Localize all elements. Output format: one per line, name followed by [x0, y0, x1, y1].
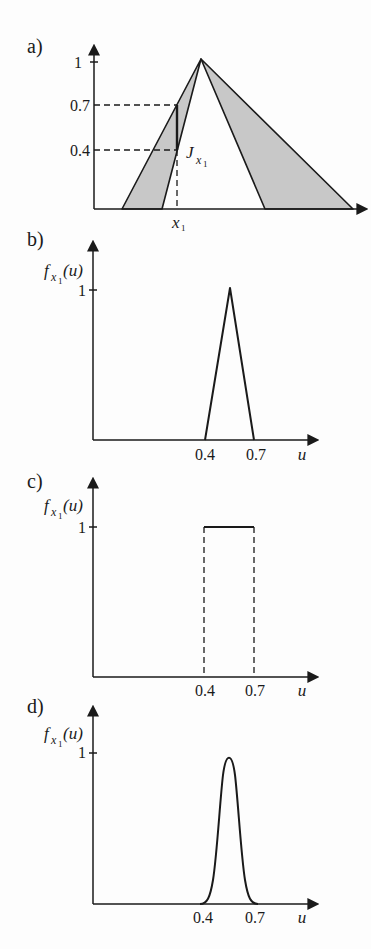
fou-left-band	[122, 59, 201, 209]
jx1-subsub: 1	[203, 159, 208, 169]
panel-d-label: d)	[27, 695, 44, 718]
panel-d-ytick-label-1: 1	[78, 744, 86, 761]
svg-text:f: f	[44, 724, 51, 743]
gaussian-secondary-mf	[200, 758, 258, 904]
panel-c-xtick-04: 0.4	[195, 682, 215, 699]
panel-a-ytick-label-04: 0.4	[70, 142, 90, 159]
svg-text:1: 1	[58, 276, 63, 286]
svg-text:x: x	[50, 270, 57, 284]
fou-right-band	[201, 59, 353, 209]
interval-secondary-mf	[204, 527, 254, 677]
panel-d-xtick-07: 0.7	[245, 909, 265, 926]
svg-text:1: 1	[58, 511, 63, 521]
svg-text:(u): (u)	[63, 261, 83, 280]
panel-a-ytick-label-1: 1	[74, 54, 82, 71]
panel-b-x-label: u	[298, 445, 307, 464]
panel-b-xtick-04: 0.4	[195, 446, 215, 463]
svg-text:1: 1	[58, 739, 63, 749]
svg-text:x: x	[50, 733, 57, 747]
jx1-label: J	[186, 143, 195, 162]
svg-text:(u): (u)	[63, 496, 83, 515]
triangular-secondary-mf	[205, 288, 254, 440]
panel-a-label: a)	[27, 35, 43, 58]
x1-sub: 1	[181, 223, 186, 233]
svg-text:x: x	[50, 505, 57, 519]
panel-c-y-label: f x 1 (u)	[44, 496, 83, 521]
svg-text:f: f	[44, 496, 51, 515]
panel-a-ytick-label-07: 0.7	[70, 97, 90, 114]
panel-c-x-label: u	[298, 681, 307, 700]
panel-b: b) f x 1 (u) 1 0.4 0.7 u	[27, 228, 317, 464]
figure-canvas: a) 1 0.7 0.4 J x 1 x 1 b) f x 1	[0, 0, 371, 949]
panel-d-x-label: u	[298, 908, 307, 927]
svg-text:(u): (u)	[63, 724, 83, 743]
panel-d-xtick-04: 0.4	[193, 909, 213, 926]
panel-b-label: b)	[27, 228, 44, 251]
panel-a: a) 1 0.7 0.4 J x 1 x 1	[27, 35, 366, 233]
panel-c: c) f x 1 (u) 1 0.4 0.7 u	[27, 470, 317, 700]
panel-b-ytick-label-1: 1	[78, 282, 86, 299]
panel-d: d) f x 1 (u) 1 0.4 0.7 u	[27, 695, 317, 927]
jx1-sub: x	[195, 153, 202, 167]
svg-text:f: f	[44, 261, 51, 280]
panel-c-ytick-label-1: 1	[78, 519, 86, 536]
panel-c-xtick-07: 0.7	[245, 682, 265, 699]
x1-label: x	[171, 213, 180, 232]
panel-b-xtick-07: 0.7	[246, 446, 266, 463]
panel-c-label: c)	[27, 470, 43, 493]
